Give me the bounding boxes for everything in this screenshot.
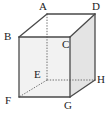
vertex-label-E: E (34, 69, 41, 80)
vertex-label-H: H (97, 74, 105, 85)
vertex-label-A: A (39, 1, 47, 12)
vertex-label-B: B (4, 31, 11, 42)
cube-figure: A D B C E H F G (0, 0, 110, 115)
vertex-label-G: G (64, 100, 72, 111)
cube-drawing (0, 0, 110, 115)
vertex-label-C: C (62, 39, 69, 50)
vertex-label-F: F (5, 95, 11, 106)
vertex-label-D: D (92, 1, 100, 12)
